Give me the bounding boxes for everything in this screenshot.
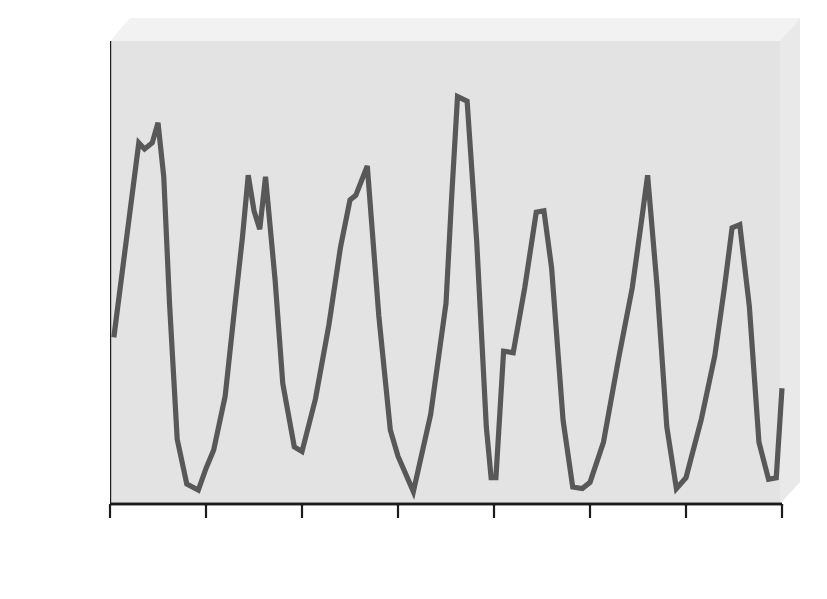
plot-top-bevel [110, 18, 800, 41]
chart-figure: Reported cases per 100,000 population 30… [0, 0, 827, 599]
plot-background [110, 41, 780, 504]
plot-svg [0, 0, 827, 599]
plot-bottom-mask [0, 506, 827, 599]
plot-right-bevel [780, 18, 800, 504]
